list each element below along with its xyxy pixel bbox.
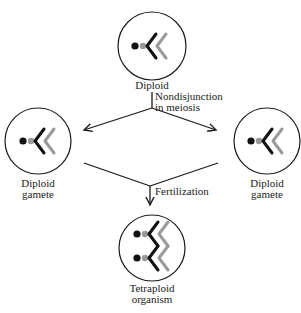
arrow-to-left-gamete <box>84 108 152 130</box>
label-line: gamete <box>8 189 68 200</box>
node-tetraploid <box>119 215 185 281</box>
line-from-left-gamete <box>84 163 150 186</box>
fertilization-arrows <box>84 163 218 205</box>
node-diploid-top <box>118 12 186 80</box>
cell-circle <box>119 215 185 281</box>
diagram-canvas <box>0 0 301 313</box>
label-fertilization: Fertilization <box>155 186 209 197</box>
cell-circle <box>234 108 300 174</box>
label-right-gamete: Diploid gamete <box>237 178 297 200</box>
line-from-right-gamete <box>150 163 218 186</box>
label-line: in meiosis <box>155 102 223 113</box>
label-line: Fertilization <box>155 186 209 197</box>
label-tetraploid: Tetraploid organism <box>117 283 187 305</box>
node-diploid-gamete-left <box>5 108 71 174</box>
cell-circle <box>5 108 71 174</box>
cell-circle <box>118 12 186 80</box>
node-diploid-gamete-right <box>234 108 300 174</box>
label-line: gamete <box>237 189 297 200</box>
label-left-gamete: Diploid gamete <box>8 178 68 200</box>
label-line: organism <box>117 294 187 305</box>
label-nondisjunction: Nondisjunction in meiosis <box>155 91 223 113</box>
